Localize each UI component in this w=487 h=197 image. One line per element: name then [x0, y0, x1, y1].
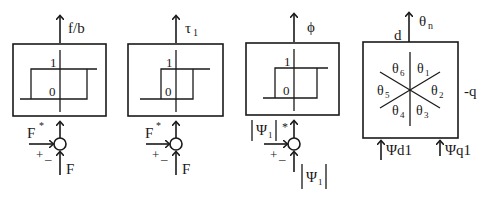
output-label: θ	[419, 13, 426, 29]
hysteresis-low-label: 0	[49, 84, 56, 99]
hysteresis-high-label: 1	[284, 54, 291, 69]
svg-text:θ: θ	[431, 83, 438, 98]
feedback-base: Ψ	[306, 169, 318, 185]
torque-hysteresis-block: τ 1 1 0 F * + – F	[128, 16, 223, 177]
hysteresis-loop	[20, 69, 97, 99]
output-label: τ	[185, 20, 191, 36]
flux-hysteresis-block: f/b 1 0 F * + – F	[13, 16, 106, 177]
reference-sup: *	[156, 120, 161, 131]
control-block-diagram: f/b 1 0 F * + – F τ 1 1 0 F * + – F	[0, 0, 487, 197]
feedback-label: F	[66, 161, 74, 177]
hysteresis-loop	[140, 69, 210, 99]
hysteresis-low-label: 0	[283, 83, 290, 98]
hysteresis-box	[246, 43, 339, 115]
reference-sup: *	[39, 120, 44, 131]
sector-theta-2: θ 2	[431, 83, 444, 100]
sector-theta-6: θ 6	[392, 61, 405, 78]
sector-theta-3: θ 3	[416, 103, 429, 120]
reference-label: F	[27, 125, 35, 141]
svg-text:3: 3	[424, 110, 429, 120]
sum-minus: –	[160, 151, 168, 166]
axis-d-label: d	[394, 27, 402, 43]
sector-selector-block: θ n d -q θ 1 θ 2 θ 3 θ 4 θ 5 θ 6	[363, 13, 477, 160]
summing-junction	[54, 138, 66, 150]
reference-label: F	[145, 125, 153, 141]
sum-plus: +	[270, 147, 277, 162]
sector-theta-1: θ 1	[417, 61, 430, 78]
sector-theta-4: θ 4	[392, 103, 405, 120]
sum-minus: –	[278, 151, 286, 166]
phi-hysteresis-block: ϕ 1 0 Ψ 1 * + – Ψ 1	[246, 14, 339, 189]
summing-junction	[288, 138, 300, 150]
sum-plus: +	[36, 147, 43, 162]
summing-junction	[170, 138, 182, 150]
reference-sub: 1	[268, 130, 273, 140]
svg-text:5: 5	[385, 90, 390, 100]
output-sub: 1	[193, 27, 198, 38]
svg-text:2: 2	[439, 90, 444, 100]
svg-text:θ: θ	[417, 61, 424, 76]
axis-q-label: -q	[464, 83, 477, 99]
svg-text:1: 1	[425, 68, 430, 78]
input-d-label: Ψd1	[386, 142, 412, 158]
svg-text:4: 4	[400, 110, 405, 120]
output-label: ϕ	[307, 19, 315, 35]
input-q-label: Ψq1	[445, 142, 471, 158]
hysteresis-loop	[263, 68, 328, 98]
svg-text:θ: θ	[392, 103, 399, 118]
svg-text:θ: θ	[377, 83, 384, 98]
sum-minus: –	[44, 151, 52, 166]
reference-sup: *	[282, 120, 288, 134]
svg-text:6: 6	[400, 68, 405, 78]
hysteresis-low-label: 0	[165, 84, 172, 99]
svg-text:θ: θ	[416, 103, 423, 118]
hysteresis-high-label: 1	[166, 55, 173, 70]
reference-base: Ψ	[256, 122, 268, 138]
sum-plus: +	[152, 147, 159, 162]
svg-text:θ: θ	[392, 61, 399, 76]
feedback-label: F	[182, 161, 190, 177]
hysteresis-high-label: 1	[50, 55, 57, 70]
output-label: f/b	[68, 20, 85, 36]
output-sub: n	[428, 20, 433, 31]
sector-theta-5: θ 5	[377, 83, 390, 100]
feedback-sub: 1	[318, 177, 323, 187]
